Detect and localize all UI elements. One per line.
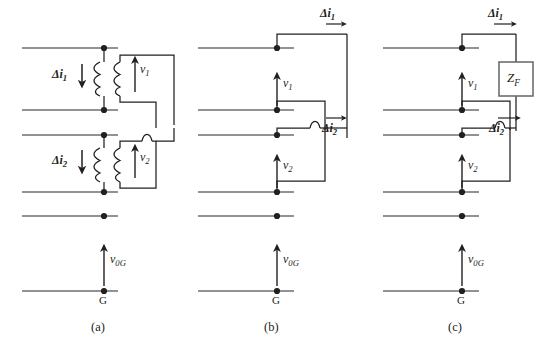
wire-hop-b — [310, 121, 320, 128]
node-dot — [274, 189, 280, 195]
label-delta-i1-c: Δi1 — [488, 6, 503, 22]
loop1-return-b — [277, 101, 325, 130]
tx1-secondary-coil — [114, 62, 120, 96]
label-v2-a: v2 — [140, 150, 150, 166]
bus-lines-panel-c — [383, 48, 479, 291]
tx2-secondary-loop-out-right — [152, 128, 174, 141]
node-dot — [101, 213, 107, 219]
label-v0g-c: v0G — [468, 252, 484, 268]
label-delta-i1-b: Δi1 — [320, 6, 335, 22]
tx2-secondary-loop-return — [120, 141, 156, 188]
node-dot — [459, 213, 465, 219]
tx1-secondary-loop-return — [120, 96, 156, 128]
node-dot — [274, 45, 280, 51]
label-ground-c: G — [457, 294, 465, 306]
loop1-top-c — [462, 34, 516, 48]
tx2-secondary-loop-out-left — [120, 141, 142, 148]
label-ground-a: G — [99, 294, 107, 306]
node-dot — [101, 107, 107, 113]
loop2-top-left-b — [277, 128, 310, 135]
node-dot — [459, 189, 465, 195]
tx2-primary-coil — [94, 148, 100, 182]
tx1-primary-coil — [94, 62, 100, 96]
label-impedance-zf: ZF — [507, 70, 520, 88]
node-dot — [459, 132, 465, 138]
label-v1-c: v1 — [468, 76, 478, 92]
caption-panel-c: (c) — [448, 320, 462, 335]
caption-panel-b: (b) — [264, 320, 279, 335]
node-dot — [274, 213, 280, 219]
label-delta-i2-c: Δi2 — [489, 121, 504, 137]
node-dot — [101, 45, 107, 51]
node-dot — [101, 132, 107, 138]
node-dot — [101, 189, 107, 195]
panel-c-wiring — [462, 24, 533, 286]
label-v1-b: v1 — [283, 76, 293, 92]
node-dot — [459, 107, 465, 113]
tx2-secondary-coil — [114, 148, 120, 182]
label-v2-b: v2 — [283, 158, 293, 174]
label-delta-i2-b: Δi2 — [322, 121, 337, 137]
node-dot — [274, 107, 280, 113]
wire-hop-a — [142, 134, 152, 141]
label-v2-c: v2 — [468, 158, 478, 174]
label-ground-b: G — [272, 294, 280, 306]
node-dot — [274, 132, 280, 138]
panel-a-wiring — [82, 48, 174, 286]
node-dot — [459, 45, 465, 51]
label-delta-i2-a: Δi2 — [52, 153, 67, 169]
label-v0g-a: v0G — [110, 252, 126, 268]
label-v0g-b: v0G — [283, 252, 299, 268]
bus-lines-panel-b — [198, 48, 294, 291]
label-delta-i1-a: Δi1 — [52, 67, 67, 83]
label-v1-a: v1 — [140, 62, 150, 78]
figure-canvas: Δi1 Δi2 v1 v2 v0G G (a) Δi1 Δi2 v1 v2 v0… — [0, 0, 555, 343]
panel-b-wiring — [277, 24, 347, 286]
caption-panel-a: (a) — [91, 320, 105, 335]
loop1-top-b — [277, 34, 347, 48]
